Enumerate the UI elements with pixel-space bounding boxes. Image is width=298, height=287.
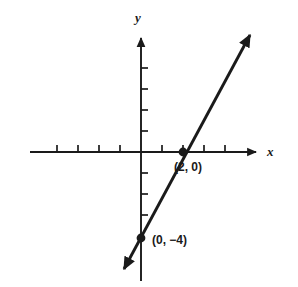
coordinate-plane [0,0,298,287]
y-axis-label: y [135,11,141,24]
x-axis-label: x [267,145,274,158]
point-label-y-intercept: (0, −4) [152,234,187,246]
point-x-intercept-marker [179,148,188,157]
y-axis-ticks-positive [141,68,148,131]
point-label-x-intercept: (2, 0) [174,161,202,173]
point-y-intercept-marker [137,234,146,243]
x-axis-ticks-negative [57,145,120,152]
y-axis-ticks-negative [141,173,148,215]
x-axis-ticks-positive [162,145,225,152]
graph-figure: y x (2, 0) (0, −4) [0,0,298,287]
